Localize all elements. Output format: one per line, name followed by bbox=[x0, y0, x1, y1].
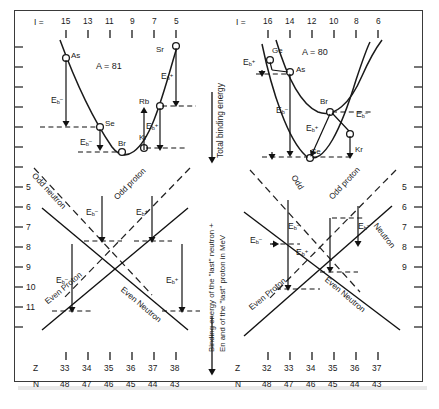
left-eb-minus-low: Eb− bbox=[86, 208, 98, 218]
left-n-5: 43 bbox=[170, 380, 179, 388]
right-axis-ticks bbox=[414, 67, 422, 327]
right-z-3: 35 bbox=[328, 364, 337, 372]
left-z-0: 33 bbox=[60, 364, 69, 372]
center-axis-bottom-line1: Binding energy of the "last" neutron + bbox=[208, 223, 216, 352]
left-n-3: 45 bbox=[126, 380, 135, 388]
left-i-value-1: 13 bbox=[83, 17, 92, 25]
left-axis-tick-6: 6 bbox=[26, 203, 31, 212]
right-z-5: 37 bbox=[372, 364, 381, 372]
left-z-1: 34 bbox=[82, 364, 91, 372]
left-bottom-z-ticks bbox=[66, 352, 176, 360]
eb-sup: + bbox=[175, 276, 179, 282]
left-n-1: 47 bbox=[82, 380, 91, 388]
right-i-value-1: 14 bbox=[285, 17, 294, 25]
left-z-4: 37 bbox=[148, 364, 157, 372]
nuclide-se-80: Se bbox=[311, 148, 321, 156]
nuclide-br-81: Br bbox=[118, 140, 126, 148]
center-axis-top-label: Total binding energy bbox=[216, 83, 224, 158]
nuclide-kr-80: Kr bbox=[355, 146, 363, 154]
right-i-prefix: I = bbox=[236, 18, 246, 26]
right-z-2: 34 bbox=[306, 364, 315, 372]
left-eb-plus-low: Eb+ bbox=[136, 208, 148, 218]
left-n-2: 46 bbox=[104, 380, 113, 388]
right-n-0: 48 bbox=[262, 380, 271, 388]
left-axis-ticks bbox=[15, 47, 23, 327]
right-n-1: 47 bbox=[284, 380, 293, 388]
right-eb-minus-lowc: Eb− bbox=[288, 222, 300, 232]
right-bottom-z-ticks bbox=[268, 352, 378, 360]
right-z-prefix: Z bbox=[235, 364, 240, 372]
right-eb-minus-as: Eb− bbox=[276, 106, 288, 116]
right-top-i-ticks bbox=[268, 30, 378, 38]
eb-sup: + bbox=[315, 124, 319, 130]
eb-sup: − bbox=[365, 110, 369, 116]
right-i-value-0: 16 bbox=[263, 17, 272, 25]
left-i-value-5: 5 bbox=[174, 17, 179, 25]
right-i-value-2: 12 bbox=[307, 17, 316, 25]
left-z-prefix: Z bbox=[33, 364, 38, 372]
left-i-value-4: 7 bbox=[152, 17, 157, 25]
right-even-even-parabola bbox=[262, 42, 370, 158]
left-eb-plus-rb: Eb+ bbox=[161, 72, 173, 82]
left-eb-minus-se: Eb− bbox=[80, 138, 92, 148]
left-i-value-3: 9 bbox=[130, 17, 135, 25]
left-axis-tick-8: 8 bbox=[26, 243, 31, 252]
left-mass-label: A = 81 bbox=[96, 62, 122, 71]
eb-sup: − bbox=[60, 96, 64, 102]
left-eb-minus-as: Eb− bbox=[51, 96, 63, 106]
left-eb-plus-kr: Eb+ bbox=[146, 122, 158, 132]
nuclide-as-81: As bbox=[71, 52, 80, 60]
right-axis-tick-5: 5 bbox=[402, 183, 407, 192]
right-eb-plus-ge: Eb+ bbox=[243, 58, 255, 68]
right-z-1: 33 bbox=[284, 364, 293, 372]
right-z-0: 32 bbox=[262, 364, 271, 372]
right-n-2: 46 bbox=[306, 380, 315, 388]
left-n-0: 48 bbox=[60, 380, 69, 388]
right-eb-plus-br: Eb+ bbox=[306, 124, 318, 134]
eb-sup: − bbox=[285, 106, 289, 112]
nuclide-ge-80: Ge bbox=[272, 47, 283, 55]
right-i-value-5: 6 bbox=[376, 17, 381, 25]
left-n-prefix: N bbox=[33, 380, 39, 388]
right-axis-tick-7: 7 bbox=[402, 223, 407, 232]
right-eb-minus-kr: Eb− bbox=[356, 110, 368, 120]
right-axis-tick-9: 9 bbox=[402, 263, 407, 272]
eb-sup: + bbox=[252, 58, 256, 64]
nuclide-kr-81: Kr bbox=[139, 134, 147, 142]
right-i-value-3: 10 bbox=[329, 17, 338, 25]
left-lower-solid-lines bbox=[42, 208, 188, 330]
left-top-i-ticks bbox=[66, 30, 176, 38]
eb-sup: − bbox=[89, 138, 93, 144]
eb-sup: + bbox=[145, 208, 149, 214]
eb-sup: − bbox=[259, 236, 263, 242]
right-i-value-4: 8 bbox=[354, 17, 359, 25]
left-eb-plus-low2: Eb+ bbox=[166, 276, 178, 286]
right-eb-minus-lowr: Eb− bbox=[358, 222, 370, 232]
eb-sup: − bbox=[297, 222, 301, 228]
eb-sup: + bbox=[155, 122, 159, 128]
left-i-prefix: I = bbox=[34, 18, 44, 26]
left-axis-tick-5: 5 bbox=[26, 183, 31, 192]
nuclide-br-80: Br bbox=[320, 98, 328, 106]
left-axis-tick-10: 10 bbox=[26, 283, 36, 292]
figure-root: I = 15 13 11 9 7 5 A = 81 As Se Br Kr Rb… bbox=[0, 0, 439, 409]
right-eb-minus-lowl: Eb− bbox=[250, 236, 262, 246]
right-lower-dashes bbox=[272, 218, 364, 289]
right-n-3: 45 bbox=[328, 380, 337, 388]
right-n-5: 43 bbox=[372, 380, 381, 388]
left-z-2: 35 bbox=[104, 364, 113, 372]
right-eb-plus-lowc: Eb+ bbox=[296, 248, 308, 258]
left-z-5: 38 bbox=[170, 364, 179, 372]
right-z-4: 36 bbox=[350, 364, 359, 372]
eb-sup: − bbox=[367, 222, 371, 228]
center-axis-bottom-line2: En and of the "last" proton in MeV bbox=[219, 235, 227, 352]
nuclide-sr-81: Sr bbox=[156, 46, 164, 54]
right-axis-tick-6: 6 bbox=[402, 203, 407, 212]
left-axis-tick-9: 9 bbox=[26, 263, 31, 272]
right-mass-label: A = 80 bbox=[302, 48, 328, 57]
left-n-4: 44 bbox=[148, 380, 157, 388]
left-z-3: 36 bbox=[126, 364, 135, 372]
nuclide-se-81: Se bbox=[105, 120, 115, 128]
left-i-value-2: 11 bbox=[105, 17, 114, 25]
left-axis-tick-11: 11 bbox=[26, 303, 35, 312]
